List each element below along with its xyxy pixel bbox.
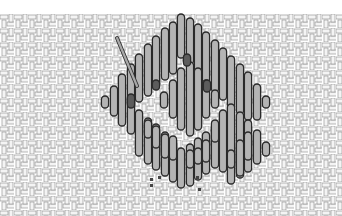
marker-dot — [150, 184, 153, 187]
stitch — [227, 56, 234, 108]
stitch — [169, 136, 176, 160]
stitch — [202, 140, 209, 162]
stitch — [161, 134, 168, 158]
stitch — [236, 64, 243, 114]
accent-stitch — [203, 80, 210, 92]
stitch — [253, 130, 260, 164]
stitch — [262, 142, 269, 156]
stitch — [118, 74, 125, 126]
marker-dot — [158, 176, 161, 179]
stitch — [186, 62, 193, 136]
stitch — [110, 86, 117, 116]
stitch — [219, 110, 226, 172]
stitch — [177, 14, 184, 58]
stitch — [135, 110, 142, 156]
stitch — [135, 54, 142, 102]
stitch — [244, 72, 251, 120]
marker-dot — [150, 178, 153, 181]
marker-dot — [196, 176, 199, 179]
accent-stitch — [183, 54, 190, 66]
stitch — [169, 80, 176, 118]
stitch — [160, 92, 167, 108]
stitch — [194, 68, 201, 130]
stitch — [194, 24, 201, 74]
stitch — [236, 140, 243, 176]
stitch — [211, 120, 218, 142]
accent-stitch — [127, 94, 134, 108]
stitch — [253, 84, 260, 120]
stitch — [227, 150, 234, 168]
stitch — [227, 104, 234, 184]
stitch — [219, 48, 226, 100]
stitch — [244, 132, 251, 160]
stitch — [202, 32, 209, 84]
stitch — [161, 28, 168, 80]
stitch — [177, 68, 184, 130]
stitch — [177, 148, 184, 188]
accent-stitch — [152, 80, 159, 90]
stitch — [186, 150, 193, 168]
stitch — [144, 120, 151, 138]
stitch — [152, 126, 159, 148]
stitch-diagram — [0, 0, 342, 216]
stitch — [101, 96, 108, 108]
stitch — [169, 22, 176, 74]
stitch — [194, 148, 201, 164]
stitch — [211, 90, 218, 108]
stitch — [262, 96, 269, 108]
stitch — [144, 44, 151, 96]
marker-dot — [198, 188, 201, 191]
stitch — [211, 40, 218, 92]
